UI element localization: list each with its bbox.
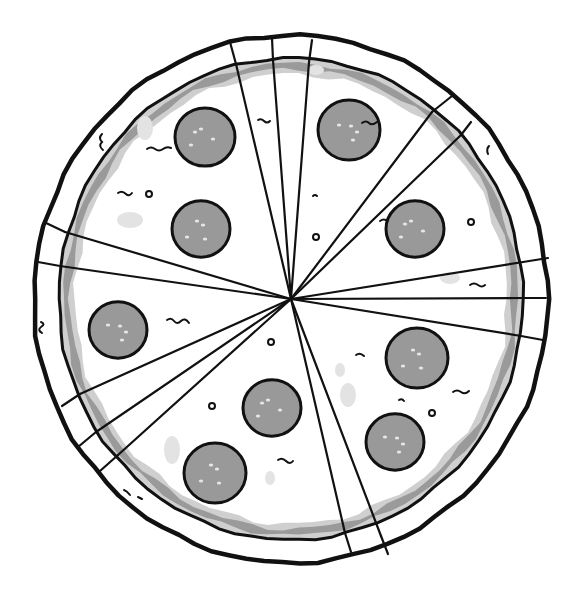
pepperoni-highlight: [118, 324, 122, 327]
cheese-blob: [137, 116, 153, 140]
pepperoni-disc: [175, 108, 235, 166]
pepperoni-disc: [184, 443, 246, 503]
pepperoni-highlight: [106, 323, 110, 326]
cheese-blob: [117, 212, 143, 228]
pepperoni-highlight: [419, 366, 423, 369]
pepperoni-disc: [386, 328, 448, 388]
pepperoni-highlight: [355, 130, 359, 133]
pepperoni-highlight: [185, 235, 189, 238]
pepperoni-highlight: [397, 450, 401, 453]
pepperoni-disc: [89, 302, 147, 358]
pepperoni-highlight: [209, 463, 213, 466]
pepperoni-highlight: [120, 338, 124, 341]
pepperoni: [172, 201, 230, 257]
pepperoni-highlight: [411, 348, 415, 351]
herb-squiggle: [313, 195, 317, 196]
cut-line: [291, 298, 523, 299]
cheese-blob: [335, 363, 345, 377]
pepperoni-highlight: [266, 398, 270, 401]
pepperoni: [89, 302, 147, 358]
pepperoni-highlight: [199, 479, 203, 482]
pizza-drawing: [0, 0, 578, 589]
pepperoni-highlight: [395, 436, 399, 439]
pepperoni-disc: [243, 380, 301, 436]
pepperoni: [175, 108, 235, 166]
pepperoni: [184, 443, 246, 503]
pepperoni-highlight: [403, 222, 407, 225]
pepperoni-highlight: [124, 330, 128, 333]
pepperoni-disc: [318, 100, 380, 160]
cheese-blob: [340, 383, 356, 407]
pepperoni-highlight: [201, 223, 205, 226]
crust-cut: [272, 38, 273, 60]
pepperoni-highlight: [195, 219, 199, 222]
pepperoni-highlight: [215, 467, 219, 470]
pepperoni-highlight: [217, 481, 221, 484]
pepperoni-highlight: [399, 235, 403, 238]
pepperoni: [243, 380, 301, 436]
pepperoni-highlight: [189, 143, 193, 146]
cheese-blob: [164, 436, 180, 464]
pepperoni-highlight: [351, 138, 355, 141]
pepperoni: [386, 328, 448, 388]
pepperoni-disc: [172, 201, 230, 257]
pepperoni-highlight: [278, 408, 282, 411]
pepperoni-highlight: [383, 435, 387, 438]
pepperoni-highlight: [256, 414, 260, 417]
pepperoni-highlight: [193, 130, 197, 133]
pepperoni-highlight: [401, 364, 405, 367]
pepperoni-disc: [386, 201, 444, 257]
pepperoni-highlight: [260, 401, 264, 404]
pepperoni: [318, 100, 380, 160]
pepperoni-highlight: [421, 229, 425, 232]
pepperoni: [386, 201, 444, 257]
pepperoni: [366, 414, 424, 470]
pizza-illustration: Sliced pepperoni pizza, top view, line-a…: [0, 0, 578, 589]
pepperoni-highlight: [211, 137, 215, 140]
cheese-blob: [265, 471, 275, 485]
pepperoni-highlight: [203, 237, 207, 240]
pepperoni-disc: [366, 414, 424, 470]
pepperoni-highlight: [199, 127, 203, 130]
pepperoni-highlight: [401, 442, 405, 445]
pepperoni-highlight: [417, 352, 421, 355]
pepperoni-highlight: [409, 219, 413, 222]
pepperoni-highlight: [337, 123, 341, 126]
pepperoni-highlight: [349, 124, 353, 127]
cheese-blob: [308, 65, 324, 75]
